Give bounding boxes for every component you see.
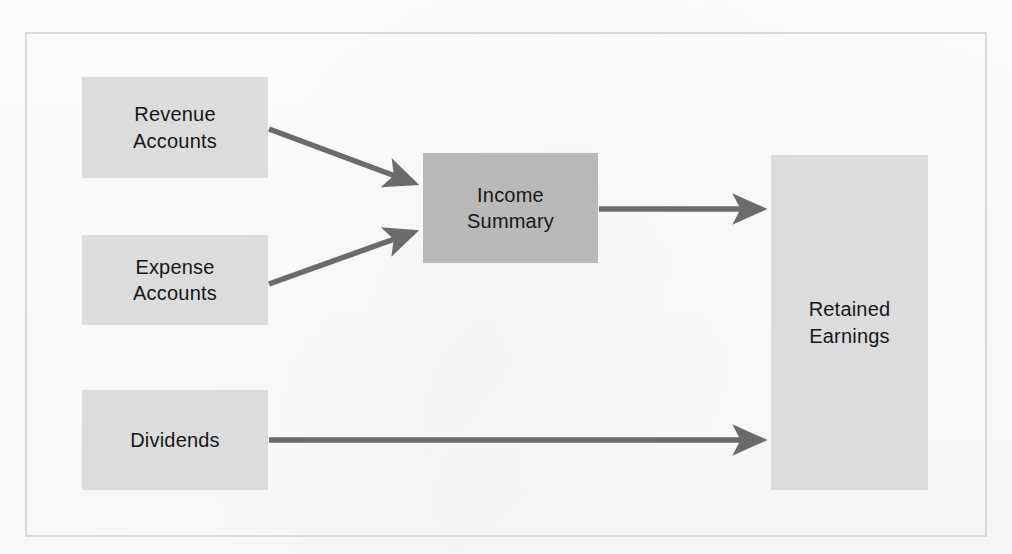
node-dividends-label: Dividends	[130, 427, 220, 453]
node-income-summary[interactable]: Income Summary	[423, 153, 598, 263]
node-retained-earnings[interactable]: Retained Earnings	[771, 155, 928, 490]
node-revenue-accounts-label: Revenue Accounts	[133, 101, 217, 154]
node-income-summary-label: Income Summary	[467, 182, 554, 235]
node-expense-accounts-label: Expense Accounts	[133, 254, 217, 307]
node-dividends[interactable]: Dividends	[82, 390, 268, 490]
node-retained-earnings-label: Retained Earnings	[809, 296, 891, 349]
node-expense-accounts[interactable]: Expense Accounts	[82, 235, 268, 325]
node-revenue-accounts[interactable]: Revenue Accounts	[82, 77, 268, 178]
diagram-canvas: Revenue Accounts Expense Accounts Divide…	[0, 0, 1012, 554]
